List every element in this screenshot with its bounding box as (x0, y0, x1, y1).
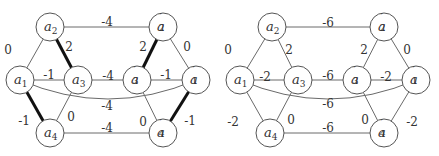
edge-weight-label: -6 (322, 121, 334, 135)
node-left-a1p: a′1 (182, 65, 210, 94)
edge-weight-label: -2 (406, 115, 418, 129)
edge-weight-label: -4 (101, 99, 113, 113)
edge-weight-label: -1 (43, 68, 55, 82)
edge-weight-label: -1 (184, 114, 196, 128)
nodes-layer: a1a2a3a4a′1a′2a′3a′4a1a2a3a4a′1a′2a′3a′4 (6, 12, 430, 147)
edge-weight-label: 0 (403, 43, 411, 57)
node-right-a4p: a′4 (370, 118, 398, 147)
node-left-a4: a4 (36, 119, 64, 147)
edge-weight-label: 0 (67, 110, 75, 124)
node-right-a1: a1 (226, 66, 254, 94)
node-right-a3: a3 (284, 66, 312, 94)
node-right-a1p: a′1 (402, 65, 430, 94)
node-left-a3p: a′3 (123, 65, 151, 94)
node-left-a3: a3 (64, 66, 92, 94)
edge-weight-label: 2 (65, 40, 73, 54)
edge-weight-label: 0 (139, 115, 147, 129)
edge-weight-label: 0 (4, 43, 12, 57)
edge-weight-label: -1 (18, 114, 30, 128)
edge-left-a1-a1p (20, 80, 196, 99)
edge-weight-label: -4 (101, 15, 113, 29)
edge-weight-label: -6 (322, 69, 334, 83)
node-left-a1: a1 (6, 66, 34, 94)
edge-weight-label: 0 (287, 113, 295, 127)
node-right-a4: a4 (256, 119, 284, 147)
edge-weight-label: -2 (227, 115, 239, 129)
graph-diagram: 02-1-10-4-4-4-420-10-102-2-20-6-6-6-620-… (0, 0, 439, 156)
edge-weight-label: -2 (259, 70, 271, 84)
node-right-a3p: a′3 (343, 65, 371, 94)
edge-weight-label: 0 (361, 113, 369, 127)
node-left-a2p: a′2 (149, 12, 177, 41)
node-left-a2: a2 (36, 13, 64, 41)
edge-weight-label: 2 (360, 43, 368, 57)
edge-weight-label: 2 (285, 43, 293, 57)
edge-weight-label: -6 (322, 97, 334, 111)
edge-weight-label: -4 (101, 121, 113, 135)
node-left-a4p: a′4 (149, 118, 177, 147)
node-right-a2p: a′2 (370, 12, 398, 41)
edge-weight-label: 0 (224, 43, 232, 57)
edge-weight-label: -6 (322, 16, 334, 30)
edge-weight-label: 0 (183, 40, 191, 54)
node-right-a2: a2 (258, 13, 286, 41)
edge-weight-label: 2 (139, 40, 147, 54)
edge-weight-label: -4 (102, 69, 114, 83)
edge-weight-label: -1 (160, 68, 172, 82)
edge-weight-label: -2 (380, 70, 392, 84)
